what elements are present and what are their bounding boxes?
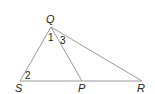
angle-label-3: 3 xyxy=(60,35,66,46)
vertex-label-s: S xyxy=(15,82,23,94)
vertex-label-p: P xyxy=(78,82,86,94)
triangle-diagram: Q S P R 1 2 3 xyxy=(0,0,155,94)
angle-label-2: 2 xyxy=(25,70,31,81)
vertex-label-r: R xyxy=(137,82,145,94)
angle-label-1: 1 xyxy=(48,32,54,43)
vertex-label-q: Q xyxy=(46,13,55,25)
segment-qp xyxy=(51,27,82,81)
